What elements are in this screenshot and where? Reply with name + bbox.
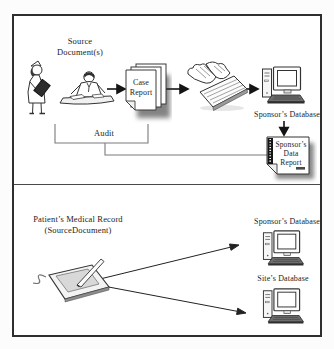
sponsor-database-computer-icon [259,64,305,106]
sponsors-data-report-label: Sponsor’s Data Report [274,140,308,167]
arrow-down-icon [280,128,288,136]
diagram-canvas: Source Document(s) Case Report Sponsor’s… [0,0,334,349]
doctor-desk-icon [58,68,116,116]
site-database-computer-icon [260,286,304,326]
audit-to-report-line [105,143,267,155]
sponsors-database-label-bottom: Sponsor’s Database [248,217,326,227]
arrow-to-site-icon [237,308,246,314]
arrow-to-sponsor-icon [230,244,240,250]
sites-database-label: Site’s Database [244,274,322,284]
case-report-label: Case Report [126,78,156,99]
diagram-frame: Source Document(s) Case Report Sponsor’s… [12,14,322,337]
sponsors-database-label-top: Sponsor’s Database [248,110,326,120]
sponsors-data-report-document: Sponsor’s Data Report [265,136,317,186]
case-report-document: Case Report [124,62,172,126]
patients-medical-record-label: Patient’s Medical Record (SourceDocument… [20,214,136,236]
keyboard-hands-icon [186,60,250,116]
sponsor-database-computer-icon-bottom [260,228,304,268]
arrow-right-icon [250,85,258,93]
tablet-stylus-icon [28,252,124,306]
section-divider [14,184,320,185]
nurse-icon [17,58,59,118]
audit-label: Audit [82,128,126,139]
source-documents-label: Source Document(s) [38,36,122,58]
